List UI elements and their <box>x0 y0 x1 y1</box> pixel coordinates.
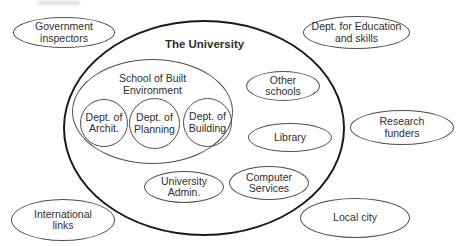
node-label: Dept. of <box>136 112 173 124</box>
node-label: Dept. for Education <box>312 21 402 33</box>
node-local-city: Local city <box>300 198 410 238</box>
node-label: schools <box>265 86 301 98</box>
node-dept-for-education-and-skills: Dept. for Education and skills <box>303 16 410 49</box>
node-label: Dept. of <box>189 111 226 123</box>
node-label: Government <box>35 21 93 33</box>
node-government-inspectors: Government inspectors <box>13 17 115 48</box>
university-title: The University <box>147 38 262 51</box>
node-dept-of-planning: Dept. of Planning <box>129 98 180 149</box>
node-label: Research <box>380 116 425 128</box>
node-label: Planning <box>134 124 175 136</box>
node-label: Archit. <box>89 123 119 135</box>
node-library: Library <box>248 123 332 152</box>
node-label: Environment <box>123 85 182 97</box>
node-dept-of-archit: Dept. of Archit. <box>80 99 128 147</box>
node-label: links <box>52 220 73 232</box>
node-label: Services <box>249 183 289 195</box>
node-label: Local city <box>333 212 377 224</box>
node-university-admin: University Admin. <box>144 171 224 203</box>
node-other-schools: Other schools <box>246 71 320 101</box>
node-label: Building <box>189 123 226 135</box>
node-label: School of Built <box>119 73 186 85</box>
node-research-funders: Research funders <box>350 110 454 145</box>
node-label: and skills <box>335 33 378 45</box>
node-label: funders <box>384 128 419 140</box>
node-label: Admin. <box>168 187 201 199</box>
node-international-links: International links <box>11 199 115 241</box>
node-dept-of-building: Dept. of Building <box>183 98 232 147</box>
node-label: inspectors <box>40 33 88 45</box>
node-computer-services: Computer Services <box>229 166 309 200</box>
university-system-diagram: Government inspectors Dept. for Educatio… <box>0 0 466 246</box>
cropped-text-artifact <box>38 1 80 5</box>
node-label: Library <box>274 132 306 144</box>
